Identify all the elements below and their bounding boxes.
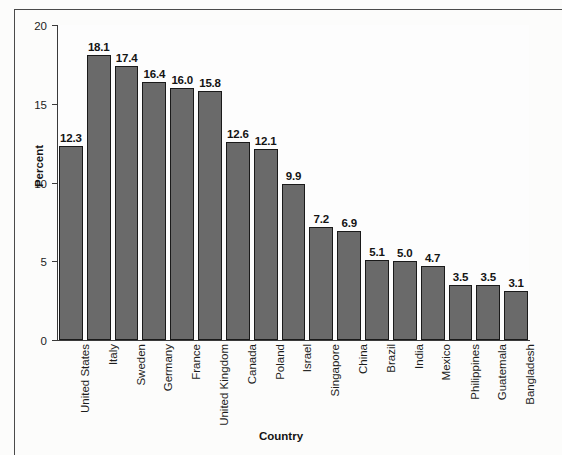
bar-slot: 3.5 (474, 25, 502, 340)
bar-value-label: 4.7 (425, 252, 440, 264)
x-axis-category-slot: China (335, 344, 363, 430)
bar[interactable] (476, 285, 500, 340)
bar[interactable] (198, 91, 222, 340)
bar-value-label: 18.1 (88, 41, 110, 53)
bar[interactable] (449, 285, 473, 340)
x-axis-category-slot: France (168, 344, 196, 430)
x-axis-category-slot: India (391, 344, 419, 430)
bar-slot: 7.2 (307, 25, 335, 340)
x-axis (57, 340, 530, 341)
bar-slot: 12.6 (224, 25, 252, 340)
y-axis-title: Percent (33, 145, 45, 187)
bar-slot: 6.9 (335, 25, 363, 340)
x-axis-category-label: Bangladesh (523, 344, 537, 405)
bar-slot: 4.7 (419, 25, 447, 340)
bar-value-label: 3.5 (481, 271, 496, 283)
bar-slot: 15.8 (196, 25, 224, 340)
bar-value-label: 16.0 (171, 74, 193, 86)
y-axis-tick-label: 15 (34, 99, 47, 111)
bar-value-label: 9.9 (286, 170, 301, 182)
bar-slot: 16.0 (168, 25, 196, 340)
x-axis-category-slot: Israel (280, 344, 308, 430)
bar-slot: 5.1 (363, 25, 391, 340)
chart-page: 05101520 12.318.117.416.416.015.812.612.… (0, 0, 562, 455)
bar-slot: 16.4 (140, 25, 168, 340)
bar[interactable] (393, 261, 417, 340)
bar-value-label: 15.8 (199, 77, 221, 89)
x-axis-category-slot: Bangladesh (502, 344, 530, 430)
bar-value-label: 3.5 (453, 271, 468, 283)
bar-value-label: 7.2 (314, 213, 329, 225)
x-axis-category-slot: Canada (224, 344, 252, 430)
bar-value-label: 6.9 (341, 217, 356, 229)
bar-value-label: 17.4 (116, 52, 138, 64)
x-axis-category-labels: United StatesItalySwedenGermanyFranceUni… (57, 344, 530, 430)
x-axis-category-slot: Italy (85, 344, 113, 430)
y-axis-tick-label: 5 (41, 256, 47, 268)
page-frame-left-border (14, 9, 15, 455)
bar-value-label: 16.4 (144, 68, 166, 80)
page-frame-top-border (14, 9, 562, 10)
bar-value-label: 5.0 (397, 247, 412, 259)
bar[interactable] (282, 184, 306, 340)
bar-value-label: 5.1 (369, 246, 384, 258)
x-axis-category-slot: Poland (252, 344, 280, 430)
bar-value-label: 12.6 (227, 128, 249, 140)
bar-slot: 9.9 (280, 25, 308, 340)
bar-slot: 17.4 (113, 25, 141, 340)
x-axis-category-slot: Guatemala (474, 344, 502, 430)
bar[interactable] (226, 142, 250, 340)
bar[interactable] (87, 55, 111, 340)
bar-value-label: 12.3 (60, 132, 82, 144)
x-axis-category-slot: Germany (140, 344, 168, 430)
bar-value-label: 12.1 (255, 135, 277, 147)
x-axis-title: Country (0, 430, 562, 442)
bar-slot: 3.1 (502, 25, 530, 340)
bar-value-label: 3.1 (508, 277, 523, 289)
x-axis-category-slot: Sweden (113, 344, 141, 430)
x-axis-category-slot: United States (57, 344, 85, 430)
bar[interactable] (421, 266, 445, 340)
bar[interactable] (309, 227, 333, 340)
x-axis-category-slot: Singapore (307, 344, 335, 430)
bar[interactable] (337, 231, 361, 340)
bar[interactable] (504, 291, 528, 340)
bar[interactable] (170, 88, 194, 340)
x-axis-category-slot: Mexico (419, 344, 447, 430)
bar[interactable] (365, 260, 389, 340)
bar-slot: 18.1 (85, 25, 113, 340)
y-axis-tick-label: 0 (41, 335, 47, 347)
x-axis-category-slot: Philippines (447, 344, 475, 430)
y-axis-tick-label: 20 (34, 20, 47, 32)
bar[interactable] (59, 146, 83, 340)
bar[interactable] (115, 66, 139, 340)
bar-slot: 12.3 (57, 25, 85, 340)
x-axis-category-slot: United Kingdom (196, 344, 224, 430)
x-axis-category-slot: Brazil (363, 344, 391, 430)
bar[interactable] (254, 149, 278, 340)
bar-slot: 12.1 (252, 25, 280, 340)
bar-slot: 5.0 (391, 25, 419, 340)
bar[interactable] (142, 82, 166, 340)
bar-series: 12.318.117.416.416.015.812.612.19.97.26.… (57, 25, 530, 340)
bar-slot: 3.5 (447, 25, 475, 340)
